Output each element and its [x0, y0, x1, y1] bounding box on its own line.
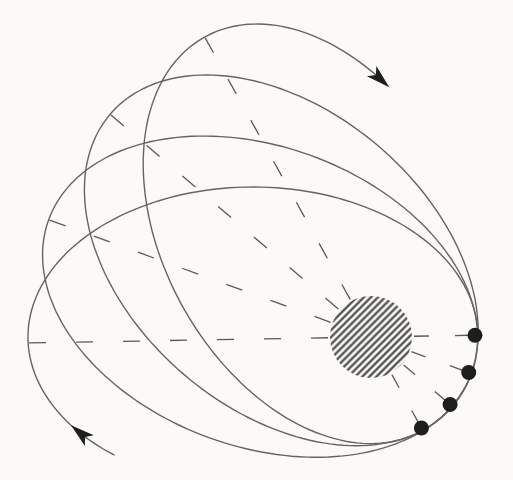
perihelion-dot-4 — [414, 420, 429, 435]
orbital-precession-figure — [0, 0, 513, 480]
precession-diagram-svg — [0, 0, 513, 480]
perihelion-dot-1 — [467, 328, 482, 343]
perihelion-dot-2 — [461, 365, 476, 380]
perihelion-dot-3 — [443, 397, 458, 412]
central-body — [330, 296, 412, 378]
